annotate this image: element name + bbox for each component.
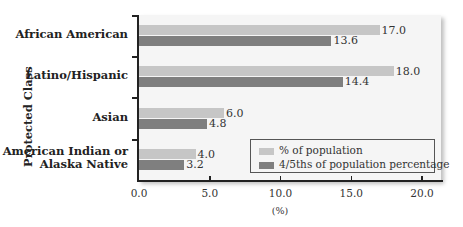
bar-value-label: 17.0	[382, 26, 407, 36]
legend-swatch-dark	[259, 162, 274, 169]
bar-value-label: 6.0	[226, 109, 244, 119]
y-tick	[132, 15, 138, 17]
bar-four-fifths	[139, 77, 343, 87]
y-tick	[132, 139, 138, 141]
bar-four-fifths	[139, 36, 331, 46]
category-label: African American	[15, 28, 128, 41]
x-tick-label: 5.0	[201, 187, 218, 199]
x-tick-label: 0.0	[131, 187, 148, 199]
y-tick	[132, 56, 138, 58]
category-label: American Indian orAlaska Native	[3, 145, 128, 171]
x-tick	[280, 176, 282, 181]
x-axis	[137, 180, 443, 182]
legend: % of population 4/5ths of population per…	[250, 139, 435, 173]
bar-value-label: 13.6	[333, 36, 358, 46]
x-tick-label: 10.0	[269, 187, 292, 199]
legend-swatch-light	[259, 148, 274, 155]
legend-label: % of population	[279, 144, 363, 156]
legend-item-population: % of population	[259, 144, 363, 156]
bar-value-label: 4.8	[209, 119, 227, 129]
bar-four-fifths	[139, 119, 207, 129]
legend-item-four-fifths: 4/5ths of population percentage	[259, 158, 450, 170]
bar-value-label: 18.0	[396, 67, 421, 77]
category-label: Asian	[92, 111, 128, 124]
x-tick	[209, 176, 211, 181]
category-label: Latino/Hispanic	[26, 69, 128, 82]
x-axis-title: (%)	[272, 205, 288, 216]
x-tick	[421, 176, 423, 181]
bar-value-label: 14.4	[345, 77, 370, 87]
x-tick	[351, 176, 353, 181]
bar-four-fifths	[139, 160, 184, 170]
y-tick	[132, 97, 138, 99]
bar-value-label: 3.2	[186, 160, 204, 170]
legend-label: 4/5ths of population percentage	[279, 158, 450, 170]
x-tick-label: 15.0	[340, 187, 363, 199]
x-tick-label: 20.0	[410, 187, 433, 199]
